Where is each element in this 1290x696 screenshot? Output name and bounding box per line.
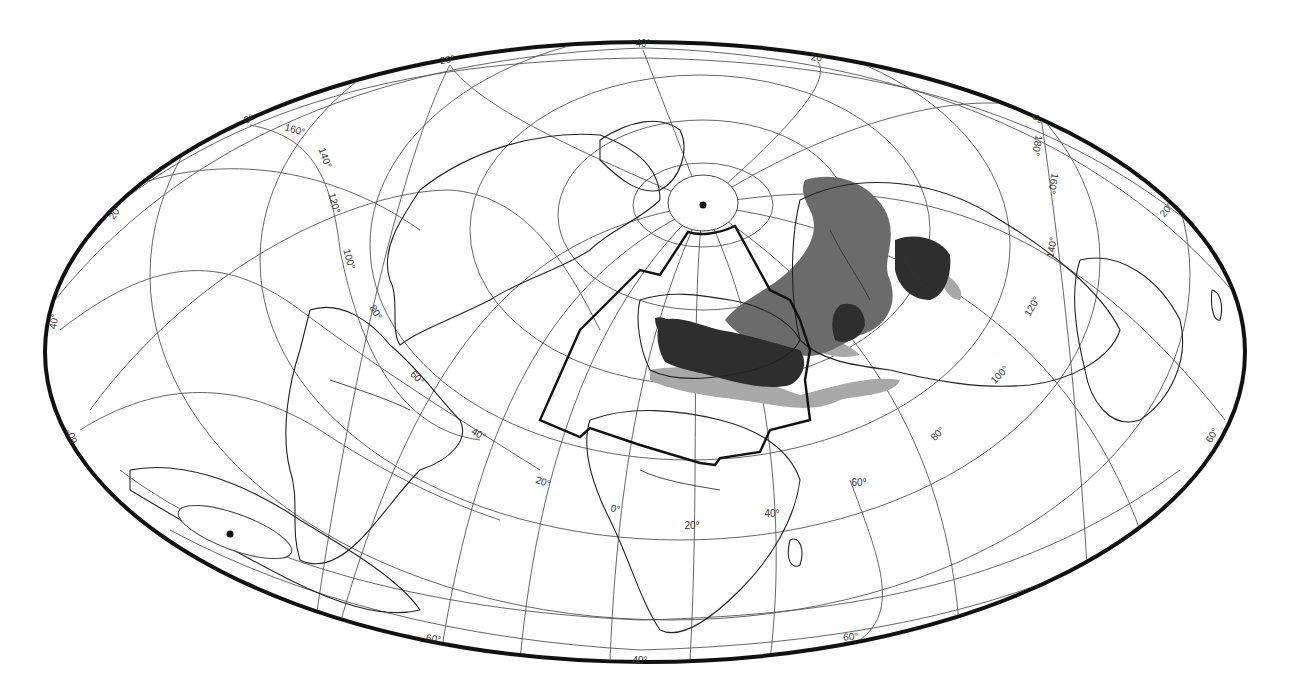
north-pole-marker xyxy=(700,202,707,209)
graticule-label: 60° xyxy=(843,630,859,642)
graticule-label: 40° xyxy=(635,38,650,49)
graticule-label: 60° xyxy=(425,632,442,645)
graticule-label: 40° xyxy=(764,508,779,519)
map-frame xyxy=(45,42,1245,662)
graticule-label: 0° xyxy=(610,502,621,514)
graticule-label: 60° xyxy=(851,477,866,488)
world-map: 40°20°20°0°160°140°120°100°80°60°40°20°0… xyxy=(0,0,1290,696)
graticule-label: 0° xyxy=(1030,114,1042,125)
graticule-label: 20° xyxy=(810,51,827,64)
graticule-label: 40° xyxy=(632,655,647,666)
graticule-label: 20° xyxy=(684,520,699,531)
south-pole-marker xyxy=(227,531,234,538)
